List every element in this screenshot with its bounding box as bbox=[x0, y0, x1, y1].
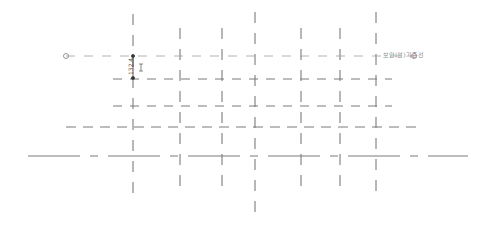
vertical-grid-lines bbox=[133, 12, 376, 220]
grip-marker-icon[interactable] bbox=[131, 76, 134, 79]
grid-drawing-canvas bbox=[0, 0, 489, 230]
dimension-value: 132.4 bbox=[127, 58, 134, 75]
reference-line-label: 보안(설)기준선 bbox=[383, 50, 424, 59]
horizontal-grid-lines bbox=[28, 79, 468, 156]
end-circle-icons bbox=[64, 54, 417, 59]
